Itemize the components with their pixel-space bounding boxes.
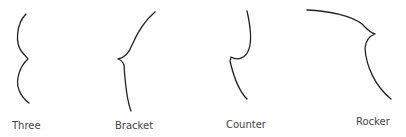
counter-curve	[230, 11, 250, 99]
bracket-curve	[118, 12, 155, 111]
rocker-label: Rocker	[356, 116, 390, 127]
counter-label: Counter	[226, 119, 266, 130]
rocker-curve	[307, 10, 391, 99]
curve-diagram	[0, 0, 406, 137]
three-curve	[17, 14, 29, 103]
three-label: Three	[12, 120, 41, 131]
bracket-label: Bracket	[115, 120, 153, 131]
